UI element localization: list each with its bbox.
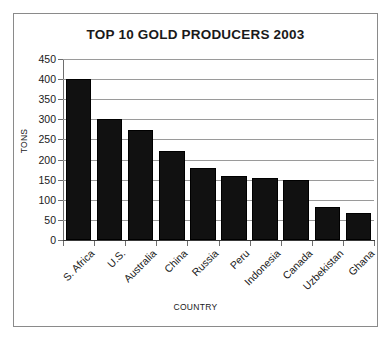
y-tick-mark: [58, 99, 63, 100]
x-tick-mark: [343, 241, 344, 246]
bar: [346, 213, 372, 240]
x-tick-mark: [63, 241, 64, 246]
bar: [159, 151, 185, 240]
y-tick-label: 200: [16, 155, 56, 166]
bar: [128, 130, 154, 240]
y-tick-mark: [58, 59, 63, 60]
y-axis-tick-labels: 050100150200250300350400450: [14, 59, 56, 240]
x-tick-mark: [281, 241, 282, 246]
x-axis-title: COUNTRY: [14, 302, 377, 312]
x-tick-label: Peru: [228, 247, 252, 271]
bar: [221, 176, 247, 240]
x-tick-mark: [156, 241, 157, 246]
chart-container: TOP 10 GOLD PRODUCERS 2003 TONS 05010015…: [13, 13, 378, 327]
y-tick-mark: [58, 79, 63, 80]
x-tick-label: Ghana: [345, 247, 376, 278]
plot-area: [63, 59, 374, 240]
x-axis-tick-marks: [63, 241, 374, 246]
bar: [315, 207, 341, 240]
x-tick-mark: [250, 241, 251, 246]
y-tick-mark: [58, 220, 63, 221]
bar-series: [63, 59, 374, 240]
y-tick-mark: [58, 119, 63, 120]
y-tick-label: 250: [16, 134, 56, 145]
bar: [97, 119, 123, 240]
x-tick-label: Russia: [190, 247, 221, 278]
y-tick-mark: [58, 160, 63, 161]
x-tick-label: Australia: [121, 247, 158, 284]
x-tick-mark: [219, 241, 220, 246]
y-tick-label: 50: [16, 215, 56, 226]
y-tick-label: 450: [16, 54, 56, 65]
x-tick-mark: [125, 241, 126, 246]
x-axis-category-labels: S. AfricaU.S.AustraliaChinaRussiaPeruInd…: [63, 247, 374, 305]
chart-title: TOP 10 GOLD PRODUCERS 2003: [14, 27, 377, 42]
bar: [66, 79, 92, 240]
y-tick-label: 100: [16, 195, 56, 206]
x-tick-mark: [374, 241, 375, 246]
x-tick-label: China: [162, 247, 190, 275]
bar: [283, 180, 309, 240]
x-tick-label: S. Africa: [60, 247, 96, 283]
bar: [190, 168, 216, 240]
y-tick-label: 400: [16, 74, 56, 85]
x-tick-mark: [312, 241, 313, 246]
x-tick-label: U.S.: [105, 247, 128, 270]
y-tick-mark: [58, 240, 63, 241]
y-tick-label: 0: [16, 235, 56, 246]
y-tick-label: 150: [16, 175, 56, 186]
y-tick-label: 300: [16, 114, 56, 125]
y-tick-label: 350: [16, 94, 56, 105]
bar: [252, 178, 278, 240]
y-tick-mark: [58, 139, 63, 140]
x-tick-mark: [187, 241, 188, 246]
x-tick-mark: [94, 241, 95, 246]
y-tick-mark: [58, 200, 63, 201]
y-tick-mark: [58, 180, 63, 181]
